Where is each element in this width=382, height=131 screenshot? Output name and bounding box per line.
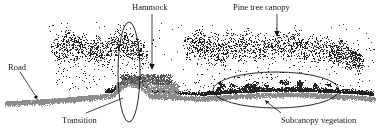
hammock-ellipse: [118, 22, 140, 122]
subcanopy-leader: [265, 100, 281, 113]
transition-leader: [86, 98, 123, 113]
label-pine-tree-canopy: Pine tree canopy: [233, 3, 290, 12]
pine-tree-canopy-leader: [274, 14, 279, 37]
label-transition: Transition: [62, 116, 97, 125]
label-road: Road: [8, 63, 26, 72]
label-hammock: Hammock: [132, 3, 167, 12]
road-leader: [20, 72, 38, 99]
label-subcanopy-vegetation: Subcanopy vegetation: [281, 116, 356, 125]
hammock-leader: [149, 14, 154, 70]
lidar-profile-figure: Hammock Pine tree canopy Road Transition…: [0, 0, 382, 131]
annotation-overlay: [0, 0, 382, 131]
subcanopy-ellipse: [213, 72, 339, 108]
